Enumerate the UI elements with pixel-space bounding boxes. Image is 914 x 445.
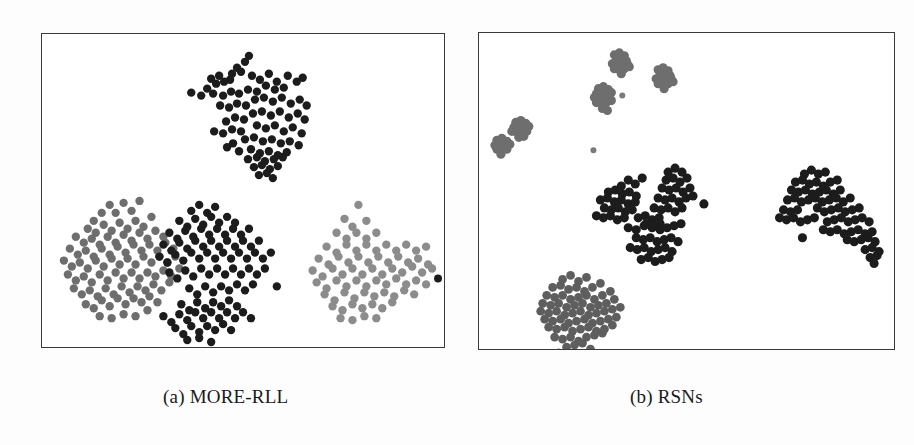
scatter-point bbox=[538, 299, 547, 308]
scatter-point bbox=[175, 310, 183, 318]
scatter-point bbox=[195, 334, 203, 342]
scatter-point bbox=[268, 135, 276, 143]
scatter-point bbox=[336, 314, 344, 322]
scatter-point bbox=[362, 240, 370, 248]
scatter-point bbox=[624, 223, 633, 232]
scatter-point bbox=[273, 282, 281, 290]
scatter-point bbox=[412, 246, 420, 254]
scatter-point bbox=[600, 307, 609, 316]
scatter-point bbox=[660, 84, 669, 93]
scatter-plot-b-svg bbox=[479, 33, 894, 349]
scatter-point bbox=[258, 161, 266, 169]
scatter-point bbox=[119, 274, 127, 282]
scatter-point bbox=[209, 298, 217, 306]
scatter-point bbox=[237, 270, 245, 278]
scatter-point bbox=[606, 287, 615, 296]
scatter-point bbox=[241, 58, 249, 66]
scatter-point bbox=[312, 278, 320, 286]
scatter-point bbox=[88, 278, 96, 286]
scatter-point bbox=[414, 254, 422, 262]
scatter-point bbox=[70, 284, 78, 292]
scatter-point bbox=[603, 106, 612, 115]
scatter-point bbox=[372, 229, 380, 237]
scatter-point bbox=[328, 302, 336, 310]
scatter-point bbox=[66, 244, 74, 252]
scatter-point bbox=[372, 276, 380, 284]
scatter-point bbox=[239, 308, 247, 316]
scatter-point bbox=[119, 199, 127, 207]
scatter-point bbox=[271, 85, 279, 93]
scatter-point bbox=[314, 254, 322, 262]
scatter-point bbox=[98, 244, 106, 252]
scatter-point bbox=[203, 84, 211, 92]
scatter-point bbox=[207, 338, 215, 346]
scatter-point bbox=[151, 272, 159, 280]
scatter-point bbox=[562, 343, 571, 349]
scatter-point bbox=[855, 203, 864, 212]
scatter-point bbox=[121, 300, 129, 308]
scatter-point bbox=[207, 75, 215, 83]
scatter-point bbox=[358, 270, 366, 278]
scatter-point bbox=[117, 282, 125, 290]
scatter-point bbox=[378, 270, 386, 278]
scatter-point bbox=[107, 254, 115, 262]
scatter-point bbox=[191, 215, 199, 223]
scatter-point bbox=[235, 248, 243, 256]
scatter-point bbox=[88, 235, 96, 243]
scatter-point bbox=[145, 240, 153, 248]
scatter-point bbox=[183, 336, 191, 344]
scatter-point bbox=[251, 95, 259, 103]
scatter-point bbox=[227, 326, 235, 334]
scatter-point bbox=[558, 291, 567, 300]
caption-panel-b: (b) RSNs bbox=[630, 386, 703, 408]
scatter-point bbox=[205, 270, 213, 278]
scatter-point bbox=[299, 74, 307, 82]
scatter-point bbox=[668, 77, 677, 86]
scatter-point bbox=[378, 304, 386, 312]
scatter-point bbox=[129, 240, 137, 248]
scatter-point bbox=[298, 129, 306, 137]
scatter-point bbox=[82, 246, 90, 254]
scatter-point bbox=[213, 264, 221, 272]
scatter-point bbox=[418, 268, 426, 276]
scatter-point bbox=[115, 260, 123, 268]
scatter-point bbox=[143, 306, 151, 314]
scatter-point bbox=[256, 76, 264, 84]
scatter-point bbox=[548, 283, 557, 292]
scatter-point bbox=[249, 109, 257, 117]
scatter-point bbox=[582, 273, 591, 282]
scatter-point bbox=[90, 304, 98, 312]
scatter-point bbox=[271, 121, 279, 129]
scatter-point bbox=[247, 145, 255, 153]
scatter-point bbox=[870, 259, 879, 268]
scatter-point bbox=[115, 219, 123, 227]
scatter-point bbox=[84, 264, 92, 272]
scatter-point bbox=[175, 238, 183, 246]
scatter-series-blob-gray-top-2 bbox=[652, 63, 678, 93]
scatter-point bbox=[590, 147, 596, 153]
scatter-point bbox=[149, 280, 157, 288]
scatter-point bbox=[259, 254, 267, 262]
scatter-point bbox=[542, 291, 551, 300]
scatter-point bbox=[334, 252, 342, 260]
scatter-point bbox=[566, 271, 575, 280]
scatter-point bbox=[265, 147, 273, 155]
scatter-point bbox=[153, 298, 161, 306]
scatter-point bbox=[348, 264, 356, 272]
scatter-point bbox=[382, 240, 390, 248]
scatter-point bbox=[173, 274, 181, 282]
scatter-point bbox=[72, 233, 80, 241]
scatter-point bbox=[143, 268, 151, 276]
scatter-point bbox=[699, 199, 708, 208]
scatter-point bbox=[836, 185, 845, 194]
scatter-point bbox=[211, 254, 219, 262]
scatter-point bbox=[408, 262, 416, 270]
scatter-point bbox=[223, 213, 231, 221]
scatter-point bbox=[111, 268, 119, 276]
scatter-point bbox=[227, 87, 235, 95]
scatter-point bbox=[428, 264, 436, 272]
scatter-point bbox=[171, 324, 179, 332]
scatter-point bbox=[185, 284, 193, 292]
scatter-point bbox=[187, 322, 195, 330]
scatter-point bbox=[631, 197, 640, 206]
